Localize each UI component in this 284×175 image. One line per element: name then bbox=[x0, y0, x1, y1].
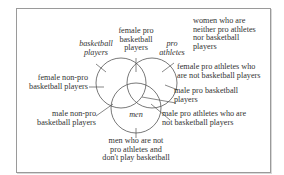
label-female-pro-basketball-players: female pro basketball players bbox=[106, 27, 166, 53]
label-line: basketball players bbox=[18, 83, 88, 92]
label-male-pro-not-basketball: male pro athletes who are not basketball… bbox=[162, 110, 246, 127]
label-line: don't play basketball bbox=[96, 154, 176, 163]
label-line: players bbox=[174, 96, 238, 105]
label-line: players bbox=[106, 44, 166, 53]
label-male-nonpro-basketball: male non-pro basketball players bbox=[26, 110, 96, 127]
label-women-neither: women who are neither pro athletes nor b… bbox=[193, 17, 256, 51]
label-line: players bbox=[193, 43, 256, 52]
label-line: basketball players bbox=[26, 119, 96, 128]
set-label-line: men bbox=[129, 110, 143, 119]
label-line: not basketball players bbox=[162, 119, 246, 128]
label-line: are not basketball players bbox=[177, 72, 260, 81]
label-male-pro-basketball: male pro basketball players bbox=[174, 87, 238, 104]
label-female-nonpro-basketball: female non-pro basketball players bbox=[18, 74, 88, 91]
label-men-neither: men who are not pro athletes and don't p… bbox=[96, 137, 176, 163]
label-female-pro-not-basketball: female pro athletes who are not basketba… bbox=[177, 63, 260, 80]
set-label-men: men bbox=[124, 111, 148, 120]
